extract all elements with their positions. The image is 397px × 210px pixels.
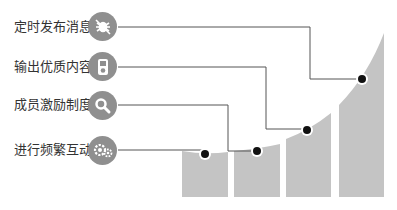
music-player-icon <box>88 52 117 81</box>
search-icon <box>88 91 117 120</box>
bar-4 <box>339 33 384 197</box>
dot-2 <box>301 124 313 136</box>
connector-line-2 <box>118 67 307 129</box>
no-bug-icon <box>88 12 117 41</box>
dot-1 <box>356 73 368 85</box>
label-scheduled-posts: 定时发布消息 <box>14 19 92 35</box>
dot-3 <box>251 145 263 157</box>
connector-line-1 <box>118 27 362 79</box>
connector-line-3 <box>118 105 257 151</box>
label-quality-content: 输出优质内容 <box>14 59 92 75</box>
dot-4 <box>199 148 211 160</box>
label-frequent-interaction: 进行频繁互动 <box>14 142 92 158</box>
label-member-incentives: 成员激励制度 <box>14 97 92 113</box>
gears-icon <box>88 136 117 165</box>
